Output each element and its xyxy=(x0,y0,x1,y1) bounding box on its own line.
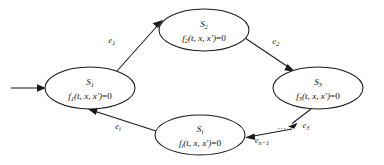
edge-e3-line xyxy=(292,109,311,124)
edge-label-e3: e3 xyxy=(303,121,310,131)
state-transition-diagram: S1 f1(t, x, x′)=0 S2 f2(t, x, x′)=0 S3 f… xyxy=(0,0,384,165)
graph-canvas: S1 f1(t, x, x′)=0 S2 f2(t, x, x′)=0 S3 f… xyxy=(0,0,384,165)
node-s3[interactable]: S3 f3(t, x, x′)=0 xyxy=(273,67,363,109)
edge-ei xyxy=(88,109,157,132)
edge-e2 xyxy=(245,38,295,72)
edge-e2-line xyxy=(245,38,291,69)
node-si-ellipse xyxy=(155,115,245,155)
edge-e1-line xyxy=(117,25,159,72)
node-s3-equation-label: f3(t, x, x′)=0 xyxy=(296,91,340,102)
edge-label-e2: e2 xyxy=(273,37,281,47)
edge-entry-arrow xyxy=(11,84,46,91)
edge-ei-line xyxy=(93,111,157,132)
node-s1-equation-label: f1(t, x, x′)=0 xyxy=(68,91,112,102)
node-si-equation-label: fi(t, x, x′)=0 xyxy=(179,138,222,149)
edge-e1 xyxy=(117,20,163,71)
node-s2-equation-label: f2(t, x, x′)=0 xyxy=(182,33,226,44)
ellipsis-label: … xyxy=(277,121,287,131)
edge-label-ei: ei xyxy=(115,122,121,132)
edge-e3-arrowhead xyxy=(288,123,298,129)
node-si[interactable]: Si fi(t, x, x′)=0 xyxy=(155,115,245,155)
edge-label-en-minus-1: en−1 xyxy=(255,136,269,146)
edge-label-e1: e1 xyxy=(109,36,116,46)
node-s1[interactable]: S1 f1(t, x, x′)=0 xyxy=(45,67,135,109)
edge-en-minus-1-arrowhead xyxy=(245,134,255,141)
node-s2[interactable]: S2 f2(t, x, x′)=0 xyxy=(159,9,249,51)
